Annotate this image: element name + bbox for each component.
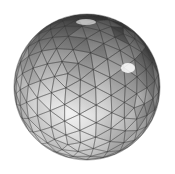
specular-spot bbox=[76, 19, 96, 25]
specular-spot bbox=[121, 63, 135, 73]
geodesic-sphere-render bbox=[0, 0, 175, 174]
sphere bbox=[14, 14, 160, 160]
